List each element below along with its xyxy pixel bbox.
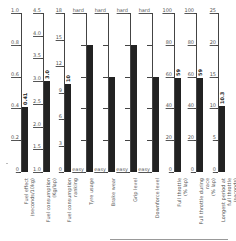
tick-mark: [191, 13, 196, 14]
tick-label: easy: [92, 166, 106, 172]
tick-mark: [59, 146, 64, 147]
tick-label: 40: [180, 102, 194, 108]
tick-mark: [103, 172, 108, 173]
value-bar: [219, 106, 225, 172]
tick-mark: [147, 140, 152, 141]
tick-mark: [191, 140, 196, 141]
tick-label: 2.5: [27, 98, 41, 104]
tick-label: 12: [48, 60, 62, 66]
category-label: Grip level: [132, 178, 138, 202]
tick-mark: [16, 140, 21, 141]
category-label: Full throttle (% lap): [176, 178, 188, 207]
tick-label: 9: [48, 87, 62, 93]
value-bar: [65, 84, 71, 172]
tick-mark: [59, 172, 64, 173]
tick-mark: [103, 108, 108, 109]
tick-mark: [213, 108, 218, 109]
tick-label: 0: [48, 166, 62, 172]
tick-label: 3.0: [27, 75, 41, 81]
value-label: 10.3: [219, 92, 225, 104]
tick-label: 80: [180, 39, 194, 45]
tick-label: 18: [48, 7, 62, 13]
tick-label: 0: [5, 166, 19, 172]
tick-label: 1.0: [5, 7, 19, 13]
tick-label: 5: [202, 134, 216, 140]
tick-mark: [147, 108, 152, 109]
tick-label: 0.8: [5, 39, 19, 45]
tick-mark: [38, 127, 43, 128]
category-label: Longest period at full throttle (seconds…: [220, 178, 236, 222]
tick-mark: [103, 140, 108, 141]
tick-label: 0.2: [5, 134, 19, 140]
tick-label: 4.0: [27, 30, 41, 36]
tick-mark: [125, 45, 130, 46]
tick-mark: [191, 108, 196, 109]
tick-mark: [169, 108, 174, 109]
tick-label: 2.0: [27, 121, 41, 127]
tick-mark: [16, 13, 21, 14]
tick-mark: [38, 58, 43, 59]
tick-label: 3.5: [27, 52, 41, 58]
value-label: 10: [65, 75, 71, 82]
tick-label: 40: [158, 102, 172, 108]
tick-mark: [81, 140, 86, 141]
value-label: 3.0: [44, 70, 50, 79]
tick-mark: [38, 104, 43, 105]
tick-label: easy: [136, 166, 150, 172]
tick-label: 0.4: [5, 102, 19, 108]
value-bar: [109, 77, 115, 172]
tick-mark: [81, 13, 86, 14]
bottom-rule: [110, 239, 228, 240]
value-bar: [153, 77, 159, 172]
tick-mark: [16, 77, 21, 78]
value-bar: [175, 78, 181, 172]
tick-mark: [147, 45, 152, 46]
tick-label: 100: [180, 7, 194, 13]
stray-mark: [6, 163, 8, 164]
tick-mark: [38, 149, 43, 150]
tick-mark: [16, 108, 21, 109]
tick-mark: [38, 36, 43, 37]
tick-mark: [125, 172, 130, 173]
tick-label: 0: [202, 166, 216, 172]
tick-mark: [191, 77, 196, 78]
tick-mark: [169, 140, 174, 141]
tick-label: 4.5: [27, 7, 41, 13]
tick-mark: [213, 45, 218, 46]
value-bar: [131, 45, 137, 172]
tick-label: 3: [48, 140, 62, 146]
tick-label: 0.6: [5, 71, 19, 77]
tick-label: 1.5: [27, 143, 41, 149]
tick-mark: [81, 77, 86, 78]
tick-label: 6: [48, 113, 62, 119]
tick-label: 60: [158, 71, 172, 77]
tick-label: 10: [202, 102, 216, 108]
tick-label: easy: [70, 166, 84, 172]
tick-mark: [103, 13, 108, 14]
tick-mark: [59, 13, 64, 14]
tick-label: 60: [180, 71, 194, 77]
tick-mark: [147, 172, 152, 173]
tick-label: 0: [180, 166, 194, 172]
tick-label: 100: [158, 7, 172, 13]
tick-label: 25: [202, 7, 216, 13]
category-label: Brake wear: [110, 178, 116, 206]
tick-label: 80: [158, 39, 172, 45]
tick-mark: [191, 172, 196, 173]
tick-mark: [213, 140, 218, 141]
category-label: Downforce level: [154, 178, 160, 218]
tick-label: 0: [158, 166, 172, 172]
tick-label: hard: [136, 7, 150, 13]
tick-mark: [169, 13, 174, 14]
tick-label: hard: [92, 7, 106, 13]
tick-mark: [103, 77, 108, 78]
tick-mark: [81, 45, 86, 46]
tick-mark: [103, 45, 108, 46]
tick-label: hard: [70, 7, 84, 13]
category-label: Full throttle during race (% lap): [198, 178, 216, 224]
tick-mark: [59, 93, 64, 94]
tick-label: hard: [114, 7, 128, 13]
tick-mark: [16, 45, 21, 46]
tick-label: 20: [180, 134, 194, 140]
category-label: Fuel effect (seconds/10kg): [23, 178, 35, 216]
